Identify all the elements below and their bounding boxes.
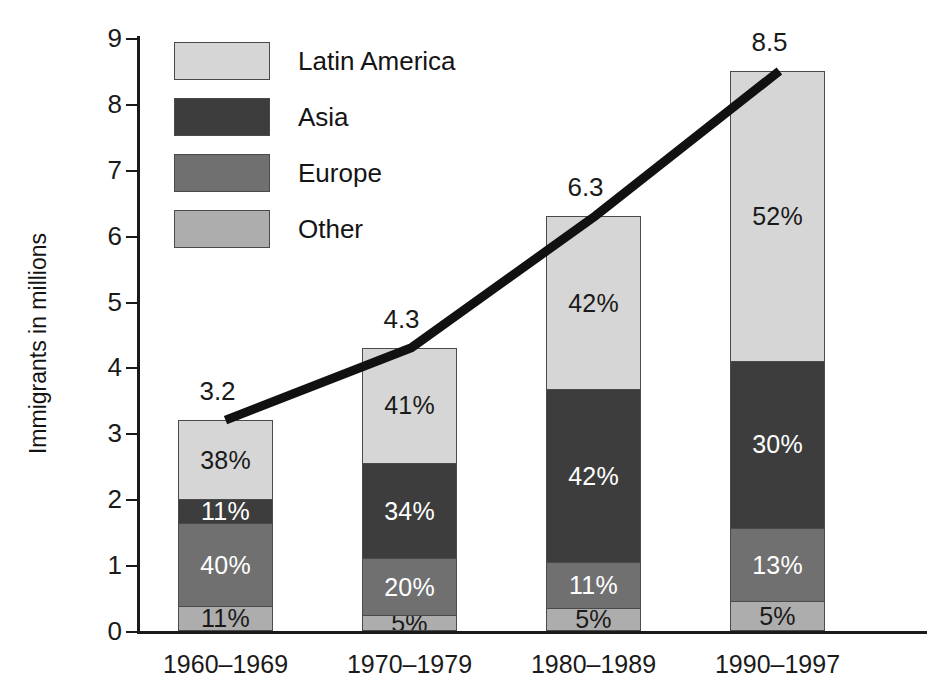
bar-segment[interactable]: 5%	[731, 601, 824, 630]
x-axis-tick-label: 1960–1969	[163, 650, 288, 679]
bar-segment-label: 20%	[384, 575, 435, 600]
bar-segment[interactable]: 5%	[363, 615, 456, 630]
legend-item-label: Asia	[298, 102, 349, 133]
bar-segment-label: 42%	[568, 464, 619, 489]
bar-segment-label: 42%	[568, 291, 619, 316]
x-axis-tick-label: 1990–1997	[715, 650, 840, 679]
bar-group[interactable]: 38%11%40%11%	[178, 420, 273, 631]
bar-segment-label: 11%	[569, 573, 618, 598]
bar-segment-label: 5%	[759, 604, 796, 629]
bar-group[interactable]: 52%30%13%5%	[730, 71, 825, 631]
bar-segment[interactable]: 5%	[547, 608, 640, 630]
stacked-bar[interactable]: 42%42%11%5%	[546, 216, 641, 631]
stacked-bar[interactable]: 41%34%20%5%	[362, 348, 457, 631]
bar-segment[interactable]: 52%	[731, 72, 824, 361]
stacked-bar[interactable]: 52%30%13%5%	[730, 71, 825, 631]
bar-segment-label: 40%	[200, 553, 251, 578]
bar-total-label: 6.3	[567, 172, 603, 203]
bar-segment-label: 5%	[391, 615, 428, 630]
bar-segment[interactable]: 30%	[731, 361, 824, 529]
legend-item[interactable]: Europe	[174, 154, 456, 192]
bar-segment-label: 34%	[384, 499, 435, 524]
x-axis-tick-label: 1970–1979	[347, 650, 472, 679]
legend: Latin AmericaAsiaEuropeOther	[174, 42, 456, 266]
bar-group[interactable]: 41%34%20%5%	[362, 348, 457, 631]
bar-segment-label: 38%	[200, 448, 251, 473]
bar-segment-label: 13%	[752, 553, 803, 578]
bar-segment[interactable]: 13%	[731, 528, 824, 601]
bar-group[interactable]: 42%42%11%5%	[546, 216, 641, 631]
bar-segment[interactable]: 34%	[363, 463, 456, 559]
x-axis-tick-label: 1980–1989	[531, 650, 656, 679]
legend-item-label: Other	[298, 214, 363, 245]
immigration-stacked-bar-chart: Immigrants in millions 0123456789 38%11%…	[0, 0, 936, 689]
bar-segment[interactable]: 42%	[547, 389, 640, 562]
legend-item[interactable]: Latin America	[174, 42, 456, 80]
bar-segment-label: 11%	[201, 606, 250, 630]
plot-area: 38%11%40%11%3.21960–196941%34%20%5%4.319…	[0, 0, 936, 689]
legend-swatch-icon	[174, 154, 270, 192]
legend-item[interactable]: Asia	[174, 98, 456, 136]
legend-swatch-icon	[174, 42, 270, 80]
legend-swatch-icon	[174, 98, 270, 136]
legend-item-label: Europe	[298, 158, 382, 189]
bar-segment[interactable]: 11%	[179, 606, 272, 630]
bar-segment-label: 5%	[575, 608, 612, 630]
stacked-bar[interactable]: 38%11%40%11%	[178, 420, 273, 631]
bar-segment[interactable]: 41%	[363, 349, 456, 463]
legend-swatch-icon	[174, 210, 270, 248]
bar-segment-label: 52%	[752, 204, 803, 229]
bar-segment-label: 11%	[201, 499, 250, 523]
bar-segment[interactable]: 20%	[363, 558, 456, 615]
bar-segment[interactable]: 42%	[547, 217, 640, 389]
bar-segment[interactable]: 11%	[547, 562, 640, 608]
bar-segment[interactable]: 40%	[179, 523, 272, 606]
bar-total-label: 4.3	[383, 304, 419, 335]
legend-item[interactable]: Other	[174, 210, 456, 248]
bar-total-label: 8.5	[751, 27, 787, 58]
bar-total-label: 3.2	[199, 376, 235, 407]
bar-segment-label: 41%	[384, 393, 435, 418]
bar-segment-label: 30%	[752, 432, 803, 457]
legend-item-label: Latin America	[298, 46, 456, 77]
bar-segment[interactable]: 38%	[179, 421, 272, 499]
bar-segment[interactable]: 11%	[179, 499, 272, 523]
